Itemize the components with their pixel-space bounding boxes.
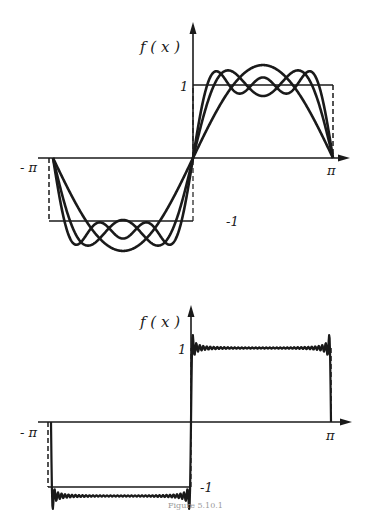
- top-chart: [38, 22, 350, 251]
- y-axis-arrow-icon: [188, 305, 195, 317]
- top-ylabel: f ( x ): [139, 38, 180, 56]
- bottom-tick-1: 1: [178, 342, 186, 357]
- top-tick-1: 1: [180, 79, 188, 94]
- bottom-tick-pi: π: [325, 428, 335, 443]
- bottom-chart: [38, 305, 352, 509]
- bottom-ylabel: f ( x ): [139, 313, 180, 331]
- figure-caption: Figure 5.10.1: [168, 501, 223, 510]
- bottom-tick-negpi: - π: [20, 425, 38, 440]
- figure-canvas: f ( x ) 1 -1 - π π f ( x ) 1 -1 - π π Fi…: [0, 0, 376, 512]
- x-axis-arrow-icon: [338, 155, 350, 162]
- x-axis-arrow-icon: [340, 419, 352, 426]
- bottom-tick-neg1: -1: [200, 480, 213, 495]
- top-tick-pi: π: [326, 163, 336, 178]
- y-axis-arrow-icon: [190, 22, 197, 34]
- top-tick-negpi: - π: [20, 160, 38, 175]
- top-tick-neg1: -1: [226, 214, 239, 229]
